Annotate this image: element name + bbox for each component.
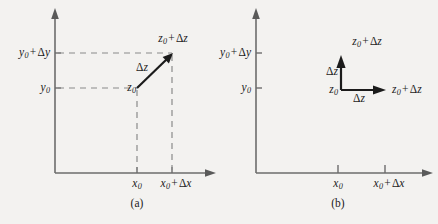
point-label-z0: z0	[127, 82, 136, 95]
y-axis-arrowhead	[252, 8, 260, 19]
x-axis-label-x0-plus-dx: x0+Δx	[161, 178, 192, 191]
origin-label-z0: z0	[329, 84, 338, 97]
panel-b-caption: (b)	[331, 197, 344, 209]
x-axis-arrowhead	[422, 169, 433, 177]
y-axis-label-y0-plus-dy: y0+Δy	[19, 47, 50, 60]
x-axis-label-x0-plus-dx: x0+Δx	[374, 178, 405, 191]
x-axis-label-x0: x0	[132, 178, 142, 191]
vector-label-delta-z: Δz	[136, 62, 148, 74]
x-axis-label-x0: x0	[333, 178, 343, 191]
panel-a: y0+Δy y0 x0 x0+Δx z0 z0+Δz Δz (a)	[0, 0, 219, 224]
horizontal-delta-z-arrowhead	[373, 85, 386, 94]
panel-b-plot	[219, 0, 438, 224]
vertical-tip-label-z0-plus-dz: z0+Δz	[352, 36, 382, 49]
x-axis-arrowhead	[205, 169, 216, 177]
point-label-z0-plus-dz: z0+Δz	[158, 33, 188, 46]
panel-a-caption: (a)	[131, 197, 144, 209]
y-axis-label-y0-plus-dy: y0+Δy	[220, 47, 251, 60]
y-axis-arrowhead	[51, 8, 59, 19]
vertical-vector-label-delta-z: Δz	[326, 66, 338, 78]
horizontal-vector-label-delta-z: Δz	[353, 93, 365, 105]
figure-container: y0+Δy y0 x0 x0+Δx z0 z0+Δz Δz (a)	[0, 0, 438, 224]
horizontal-tip-label-z0-plus-dz: z0+Δz	[392, 84, 422, 97]
y-axis-label-y0: y0	[41, 82, 51, 95]
y-axis-label-y0: y0	[242, 82, 252, 95]
panel-b: y0+Δy y0 x0 x0+Δx z0 Δz z0+Δz Δz z0+Δz (…	[219, 0, 438, 224]
